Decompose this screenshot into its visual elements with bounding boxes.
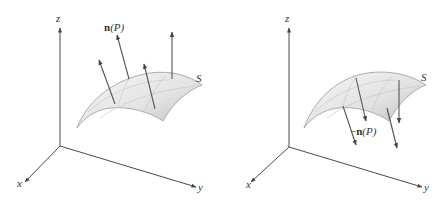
left-surface — [77, 72, 202, 128]
normal-vector-arrow — [117, 35, 129, 79]
surface-label: S — [196, 72, 202, 84]
normal-label: n(P) — [104, 21, 125, 34]
right-surface — [304, 72, 426, 128]
y-axis-label: y — [423, 181, 429, 193]
surface-label: S — [421, 71, 427, 83]
x-axis — [25, 146, 60, 182]
z-axis-label: z — [284, 12, 290, 24]
right-panel: z x y −n(P) S — [245, 12, 429, 193]
x-axis — [251, 147, 289, 182]
y-axis — [60, 146, 196, 187]
surface-normals-figure: z x y n(P) S z — [0, 0, 443, 206]
left-panel: z x y n(P) S — [16, 12, 203, 193]
x-axis-label: x — [16, 177, 22, 189]
z-axis-label: z — [55, 12, 61, 24]
y-axis — [289, 147, 422, 187]
y-axis-label: y — [197, 181, 203, 193]
x-axis-label: x — [245, 178, 251, 190]
negative-normal-label: −n(P) — [350, 125, 377, 138]
